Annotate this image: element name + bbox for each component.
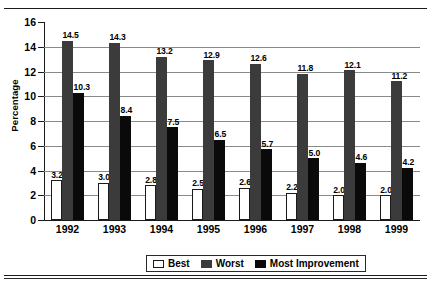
bar-group: 2.012.14.6 [326,22,373,220]
legend-label: Worst [216,259,244,269]
bar-most-improvement-1997 [308,158,319,220]
bar-best-1995 [192,189,203,220]
x-axis-tick-labels: 19921993199419951996199719981999 [44,224,420,242]
legend-item-most-improvement: Most Improvement [255,259,359,269]
bar-most-improvement-1998 [355,163,366,220]
legend-label: Most Improvement [270,259,359,269]
y-tick-mark [38,171,44,172]
bar-most-improvement-1993 [120,116,131,220]
bar-group: 2.512.96.5 [185,22,232,220]
y-tick-label: 2 [2,190,36,201]
bar-value-label: 11.2 [391,72,407,81]
legend-swatch-icon [255,260,266,268]
x-tick-label-1999: 1999 [373,224,420,235]
y-tick-mark [38,47,44,48]
bar-value-label: 10.3 [74,83,90,92]
bar-worst-1994 [156,57,167,220]
bar-group: 2.612.65.7 [232,22,279,220]
y-axis-tick-labels: 0246810121416 [0,22,36,220]
y-tick-label: 0 [2,215,36,226]
x-tick-label-1995: 1995 [185,224,232,235]
x-tick-label-1992: 1992 [44,224,91,235]
bar-worst-1992 [62,41,73,220]
y-tick-mark [38,96,44,97]
x-tick-label-1996: 1996 [232,224,279,235]
bar-worst-1996 [250,64,261,220]
legend-label: Best [168,259,190,269]
x-tick-label-1997: 1997 [279,224,326,235]
bar-group: 3.214.510.3 [44,22,91,220]
top-horizontal-rule [4,8,427,9]
bar-worst-1997 [297,74,308,220]
bar-value-label: 5.0 [309,149,321,158]
y-tick-label: 8 [2,116,36,127]
bar-value-label: 4.6 [356,153,368,162]
y-tick-label: 12 [2,67,36,78]
legend-item-worst: Worst [201,259,244,269]
y-tick-label: 6 [2,141,36,152]
y-tick-mark [38,146,44,147]
bar-value-label: 5.7 [262,140,274,149]
y-tick-mark [38,72,44,73]
bar-worst-1993 [109,43,120,220]
bar-most-improvement-1994 [167,127,178,220]
bar-best-1997 [286,193,297,220]
bar-value-label: 12.6 [250,54,266,63]
y-tick-mark [38,195,44,196]
bar-value-label: 8.4 [121,106,133,115]
y-tick-label: 10 [2,91,36,102]
bar-value-label: 12.1 [344,61,360,70]
y-tick-label: 4 [2,166,36,177]
clipped-caption [0,0,431,6]
y-tick-mark [38,22,44,23]
bar-group: 2.211.85.0 [279,22,326,220]
bar-value-label: 4.2 [403,158,415,167]
legend-swatch-icon [153,260,164,268]
x-tick-label-1994: 1994 [138,224,185,235]
plot-area: 3.214.510.33.014.38.42.813.27.52.512.96.… [44,22,420,220]
chart-legend: BestWorstMost Improvement [146,255,366,272]
bar-value-label: 7.5 [168,118,180,127]
bar-most-improvement-1999 [402,168,413,220]
y-tick-mark [38,121,44,122]
bar-value-label: 13.2 [156,47,172,56]
legend-item-best: Best [153,259,190,269]
x-tick-label-1998: 1998 [326,224,373,235]
bar-worst-1995 [203,60,214,220]
y-tick-label: 14 [2,42,36,53]
bar-value-label: 12.9 [203,51,219,60]
bar-most-improvement-1996 [261,149,272,220]
bar-value-label: 14.5 [62,31,78,40]
bar-value-label: 14.3 [109,33,125,42]
bar-best-1999 [380,195,391,220]
bar-best-1996 [239,188,250,220]
bar-most-improvement-1995 [214,140,225,220]
y-tick-label: 16 [2,17,36,28]
bar-best-1992 [51,180,62,220]
bar-best-1998 [333,195,344,220]
bar-group: 2.011.24.2 [373,22,420,220]
bar-best-1994 [145,185,156,220]
bar-chart: Percentage 0246810121416 3.214.510.33.01… [0,14,431,246]
bar-value-label: 11.8 [297,64,313,73]
x-axis-line [44,220,420,221]
bar-worst-1998 [344,70,355,220]
bar-group: 3.014.38.4 [91,22,138,220]
bar-best-1993 [98,183,109,220]
legend-swatch-icon [201,260,212,268]
bottom-horizontal-rule-lower [4,278,427,279]
bar-most-improvement-1992 [73,93,84,220]
bar-worst-1999 [391,81,402,220]
bar-value-label: 6.5 [215,130,227,139]
y-tick-mark [38,220,44,221]
bottom-horizontal-rule-upper [4,275,427,276]
x-tick-label-1993: 1993 [91,224,138,235]
bar-group: 2.813.27.5 [138,22,185,220]
